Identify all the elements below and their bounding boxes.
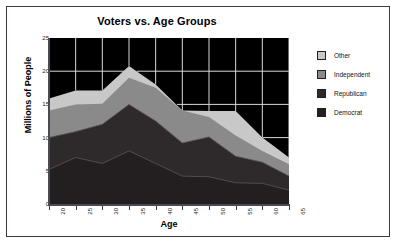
legend-swatch-icon xyxy=(317,70,326,79)
legend-item-other[interactable]: Other xyxy=(317,49,397,68)
x-tick-mark xyxy=(156,206,157,210)
legend-label: Other xyxy=(334,51,350,60)
chart-title: Voters vs. Age Groups xyxy=(7,15,307,27)
x-tick-label: 65 xyxy=(300,208,307,230)
x-tick-mark xyxy=(182,206,183,210)
legend-label: Independent xyxy=(334,70,370,79)
x-tick-mark xyxy=(236,206,237,210)
y-tick-label: 5 xyxy=(31,168,49,174)
x-tick-mark xyxy=(49,206,50,210)
legend-label: Republican xyxy=(334,89,367,98)
x-tick-mark xyxy=(129,206,130,210)
y-tick-label: 25 xyxy=(31,35,49,41)
chart-figure: Voters vs. Age Groups Millions of People… xyxy=(6,6,390,237)
y-tick-label: 20 xyxy=(31,68,49,74)
x-tick-mark xyxy=(262,206,263,210)
legend-item-independent[interactable]: Independent xyxy=(317,68,397,87)
legend-label: Democrat xyxy=(334,108,362,117)
x-tick-mark xyxy=(209,206,210,210)
chart-legend: OtherIndependentRepublicanDemocrat xyxy=(317,49,397,125)
plot-area xyxy=(49,38,289,204)
legend-swatch-icon xyxy=(317,89,326,98)
y-tick-label: 15 xyxy=(31,101,49,107)
y-tick-label: 0 xyxy=(31,201,49,207)
y-tick-label: 10 xyxy=(31,135,49,141)
stacked-area-plot xyxy=(49,38,289,204)
y-axis-line xyxy=(48,38,50,205)
legend-item-republican[interactable]: Republican xyxy=(317,87,397,106)
legend-item-democrat[interactable]: Democrat xyxy=(317,106,397,125)
x-axis-title: Age xyxy=(49,219,289,229)
x-tick-mark xyxy=(102,206,103,210)
x-tick-mark xyxy=(76,206,77,210)
y-axis-ticks: 0510152025 xyxy=(21,7,49,238)
legend-swatch-icon xyxy=(317,51,326,60)
x-tick-mark xyxy=(289,206,290,210)
legend-swatch-icon xyxy=(317,108,326,117)
